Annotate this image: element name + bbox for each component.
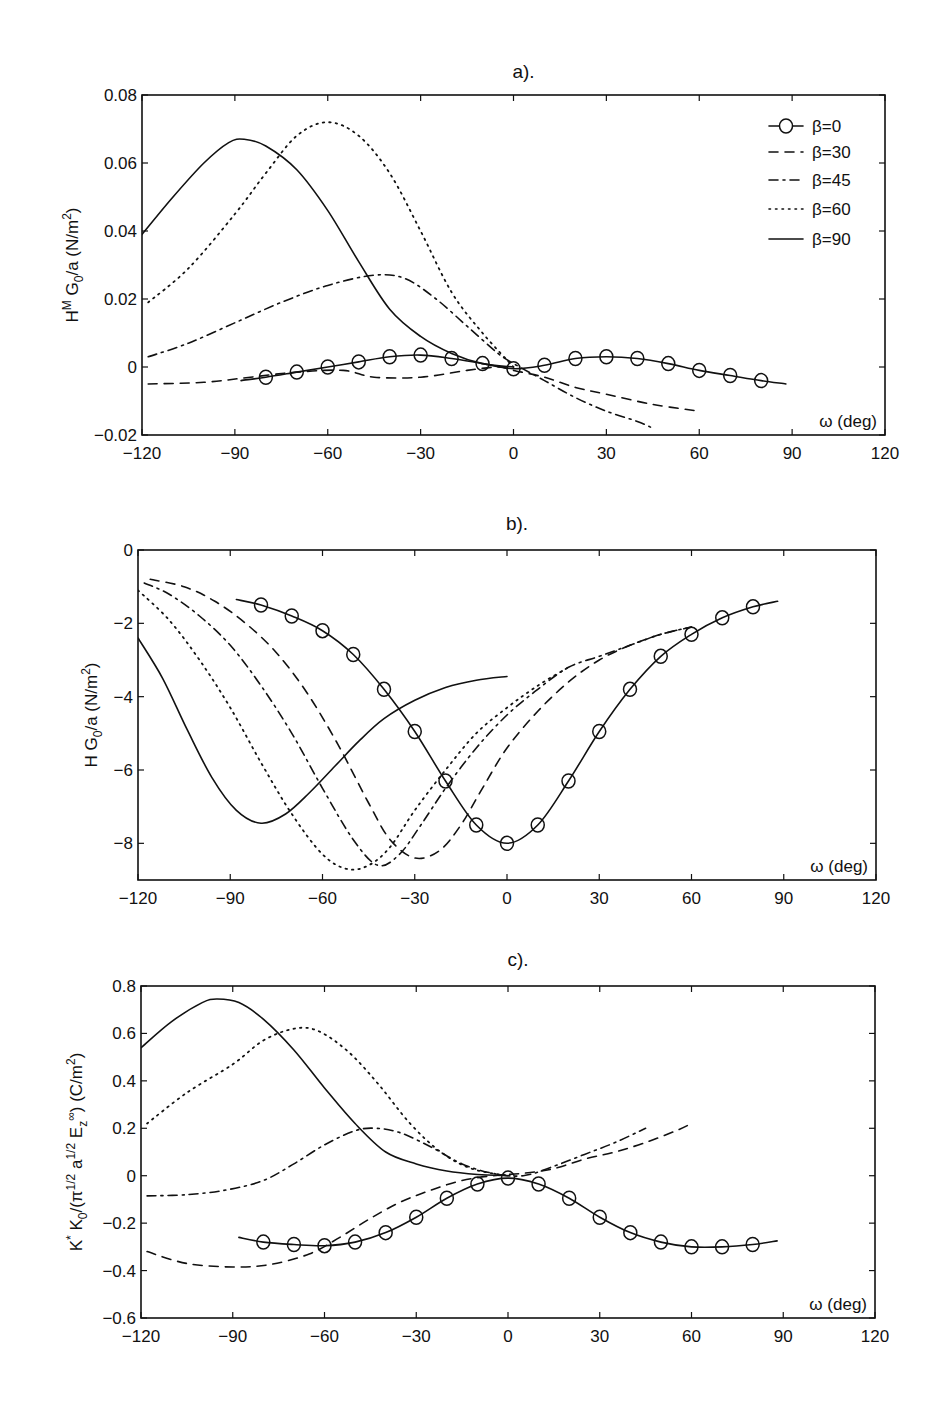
y-tick-label: −0.02 [94, 426, 137, 445]
legend-entry: β=30 [812, 143, 851, 162]
x-tick-label: −30 [400, 889, 429, 908]
y-tick-label: −6 [114, 761, 133, 780]
y-tick-label: 0.08 [104, 86, 137, 105]
series-line-beta-90 [138, 638, 507, 823]
y-tick-label: 0.8 [112, 977, 136, 996]
y-tick-label: 0 [127, 1167, 136, 1186]
x-tick-label: −90 [216, 889, 245, 908]
x-tick-label: −60 [313, 444, 342, 463]
x-tick-label: −120 [123, 444, 161, 463]
x-tick-label: 90 [774, 889, 793, 908]
x-axis-label: ω (deg) [819, 412, 877, 431]
x-tick-label: 60 [682, 1327, 701, 1346]
svg-text:H G0/a (N/m2): H G0/a (N/m2) [79, 662, 105, 767]
x-tick-label: −90 [220, 444, 249, 463]
x-axis-label: ω (deg) [809, 1295, 867, 1314]
series-line-beta-60 [138, 590, 569, 869]
series-line-beta-60 [147, 1028, 508, 1176]
panel-title: c). [507, 949, 528, 970]
y-tick-label: −0.4 [102, 1262, 136, 1281]
series-line-beta-45 [147, 1128, 645, 1196]
x-tick-label: 0 [502, 889, 511, 908]
x-tick-label: 0 [509, 444, 518, 463]
plot-frame [142, 95, 885, 435]
x-tick-label: −60 [308, 889, 337, 908]
y-tick-label: 0 [128, 358, 137, 377]
y-tick-label: 0 [124, 541, 133, 560]
x-tick-label: 120 [862, 889, 890, 908]
x-tick-label: −120 [122, 1327, 160, 1346]
plot-frame [141, 986, 875, 1318]
legend-entry: β=90 [812, 230, 851, 249]
series-line-beta-30 [148, 367, 699, 411]
legend-entry: β=45 [812, 171, 851, 190]
y-tick-label: 0.06 [104, 154, 137, 173]
chart-panel-c: c).−120−90−60−300306090120−0.6−0.4−0.200… [64, 949, 889, 1346]
series-line-beta-0 [239, 1178, 777, 1247]
y-tick-label: −0.6 [102, 1309, 136, 1328]
series-line-beta-0 [241, 355, 786, 384]
y-tick-label: −0.2 [102, 1214, 136, 1233]
series-line-beta-90 [141, 999, 508, 1176]
y-tick-label: 0.6 [112, 1024, 136, 1043]
x-tick-label: −60 [310, 1327, 339, 1346]
series-line-beta-60 [148, 122, 513, 367]
y-tick-label: 0.4 [112, 1072, 136, 1091]
panel-title: b). [506, 513, 528, 534]
y-tick-label: −2 [114, 614, 133, 633]
x-tick-label: 90 [783, 444, 802, 463]
svg-text:HM G0/a (N/m2): HM G0/a (N/m2) [60, 207, 86, 322]
chart-panel-b: b).−120−90−60−300306090120−8−6−4−20ω (de… [79, 513, 890, 908]
x-tick-label: 60 [690, 444, 709, 463]
x-tick-label: 120 [861, 1327, 889, 1346]
legend: β=0β=30β=45β=60β=90 [769, 117, 851, 249]
x-tick-label: −90 [218, 1327, 247, 1346]
series-line-beta-30 [150, 579, 691, 858]
x-axis-label: ω (deg) [810, 857, 868, 876]
chart-panel-a: a).−120−90−60−300306090120−0.0200.020.04… [60, 61, 899, 463]
series-line-beta-90 [142, 139, 514, 367]
x-tick-label: −30 [402, 1327, 431, 1346]
svg-text:K* K0/(π1/2 a1/2 Ez∞) (C/m2): K* K0/(π1/2 a1/2 Ez∞) (C/m2) [64, 1053, 90, 1252]
x-tick-label: 0 [503, 1327, 512, 1346]
x-tick-label: 30 [590, 889, 609, 908]
x-tick-label: 30 [597, 444, 616, 463]
y-tick-label: −4 [114, 688, 133, 707]
y-tick-label: −8 [114, 834, 133, 853]
figure: a).−120−90−60−300306090120−0.0200.020.04… [0, 0, 940, 1417]
series-line-beta-45 [144, 583, 691, 866]
x-tick-label: −30 [406, 444, 435, 463]
legend-entry: β=0 [812, 117, 841, 136]
y-tick-label: 0.04 [104, 222, 137, 241]
x-tick-label: 60 [682, 889, 701, 908]
x-tick-label: 90 [774, 1327, 793, 1346]
x-tick-label: 120 [871, 444, 899, 463]
x-tick-label: −120 [119, 889, 157, 908]
legend-entry: β=60 [812, 200, 851, 219]
x-tick-label: 30 [590, 1327, 609, 1346]
y-tick-label: 0.02 [104, 290, 137, 309]
y-tick-label: 0.2 [112, 1119, 136, 1138]
panel-title: a). [512, 61, 534, 82]
